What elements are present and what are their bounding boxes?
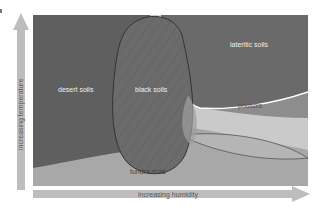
- label-desert-soils: desert soils: [58, 86, 94, 93]
- label-tundra-soils: tundra soils: [130, 168, 166, 175]
- x-axis-label: increasing humidity: [138, 191, 198, 199]
- label-podsols: podsols: [238, 102, 263, 110]
- soil-diagram: increasing temperature increasing humidi…: [0, 0, 322, 213]
- label-black-soils: black soils: [135, 86, 168, 93]
- y-axis-label: increasing temperature: [17, 78, 25, 150]
- black-soils-hatch: [113, 16, 193, 173]
- label-lateritic-soils: lateritic soils: [230, 41, 269, 48]
